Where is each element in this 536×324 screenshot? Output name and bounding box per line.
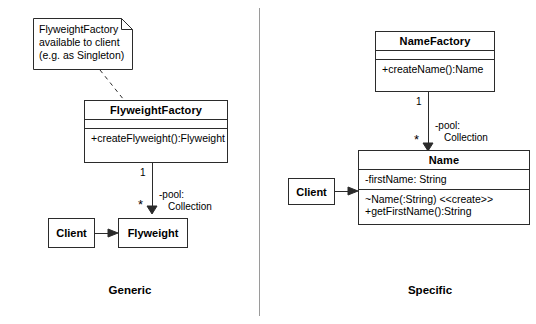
operation-create-flyweight: +createFlyweight():Flyweight	[91, 132, 221, 145]
class-name-attributes: -firstName: String	[359, 170, 529, 190]
class-namefactory-title: NameFactory	[376, 32, 494, 51]
class-name-operations: ~Name(:String) <<create>> +getFirstName(…	[359, 190, 529, 221]
note-anchor-dashed-line	[100, 70, 124, 100]
class-flyweightfactory: FlyweightFactory +createFlyweight():Flyw…	[84, 100, 228, 163]
box-client-specific: Client	[288, 178, 335, 205]
class-namefactory-operations: +createName():Name	[376, 60, 494, 79]
operation-create-name: +createName():Name	[382, 63, 488, 76]
association-role-specific: -pool: Collection	[435, 120, 488, 144]
class-name-title: Name	[359, 151, 529, 170]
association-role-specific-line1: -pool:	[435, 120, 488, 132]
multiplicity-source-generic: 1	[140, 168, 146, 178]
note-text: FlyweightFactory available to client (e.…	[39, 23, 129, 62]
class-namefactory-attributes	[376, 51, 494, 60]
class-flyweightfactory-attributes	[85, 120, 227, 129]
association-role-generic: -pool: Collection	[159, 189, 212, 213]
caption-generic: Generic	[90, 284, 170, 296]
multiplicity-source-specific: 1	[416, 97, 422, 107]
note-flyweightfactory: FlyweightFactory available to client (e.…	[33, 18, 133, 70]
box-client-generic: Client	[48, 218, 95, 248]
box-flyweight: Flyweight	[118, 218, 188, 248]
multiplicity-target-generic: *	[138, 200, 143, 210]
caption-specific: Specific	[390, 284, 470, 296]
association-role-generic-line2: Collection	[159, 201, 212, 213]
uml-diagram-canvas: FlyweightFactory available to client (e.…	[0, 0, 536, 324]
note-line-3: (e.g. as Singleton)	[39, 49, 129, 62]
operation-get-firstname: +getFirstName():String	[365, 205, 523, 218]
client-name-link	[335, 191, 353, 192]
client-flyweight-link	[95, 233, 113, 234]
panel-divider	[259, 8, 260, 316]
class-namefactory: NameFactory +createName():Name	[375, 31, 495, 92]
class-flyweightfactory-title: FlyweightFactory	[85, 101, 227, 120]
operation-name-constructor: ~Name(:String) <<create>>	[365, 193, 523, 206]
association-role-specific-line2: Collection	[435, 132, 488, 144]
attribute-firstname: -firstName: String	[365, 173, 523, 186]
association-role-generic-line1: -pool:	[159, 189, 212, 201]
multiplicity-target-specific: *	[414, 135, 419, 145]
association-line-generic	[152, 163, 153, 213]
class-flyweightfactory-operations: +createFlyweight():Flyweight	[85, 129, 227, 148]
class-name: Name -firstName: String ~Name(:String) <…	[358, 150, 530, 225]
association-line-specific	[428, 92, 429, 150]
note-line-2: available to client	[39, 36, 129, 49]
note-line-1: FlyweightFactory	[39, 23, 129, 36]
